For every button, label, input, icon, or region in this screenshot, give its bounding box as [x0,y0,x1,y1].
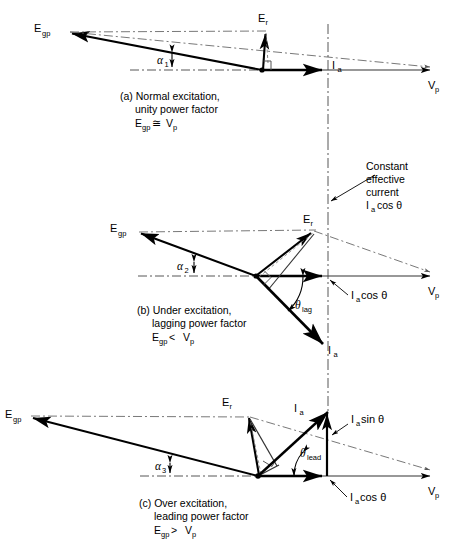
panel-a-upper-dashdot [70,31,268,32]
panel-b-ia-sub: a [334,350,339,359]
panel-b-er-dashed [259,233,313,277]
panel-c-rel-rhs: V [185,524,192,536]
panel-b-rel-lhs-sub: gp [159,337,167,346]
panel-b-rel-rhs-sub: p [190,337,194,346]
panel-c-iacos-leader [330,480,347,497]
panel-c-caption-line-2: leading power factor [154,510,249,522]
panel-a-locus-line [70,32,430,67]
panel-a-alpha-label: α [157,54,164,66]
panel-c-rel-lhs: E [154,524,161,536]
panel-b-er-phasor [257,233,311,275]
panel-b-rel-op: < [169,331,175,343]
panel-b-egp-label: E [110,222,117,234]
panel-b-egp-phasor [141,234,256,277]
panel-a-right-angle-marker [264,61,272,70]
panel-b-egp-sub: gp [118,229,126,238]
panel-a-rel-lhs: E [135,117,142,129]
panel-c-iasin-leader [332,424,348,435]
annotation-symbol-rest: cos θ [377,199,402,211]
panel-b: E gp E r I a α 2 θ lag I a cos θ V p (b)… [110,213,439,360]
panel-b-caption-relation: E gp < V p [152,331,194,346]
annotation-line-2: effective [366,173,405,185]
panel-b-alpha-sub: 2 [185,266,189,275]
panel-a-alpha-sub: 1 [165,60,169,69]
panel-c-egp-sub: gp [13,415,21,424]
panel-c-upper-dashdot [31,416,252,417]
panel-b-er-sub: r [311,219,314,228]
panel-b-rel-lhs: E [152,331,159,343]
panel-c-iacos-rest: cos θ [360,491,386,503]
panel-c-ia-sub: a [300,408,305,417]
panel-c-rel-op: > [171,524,177,536]
panel-b-rel-rhs: V [183,331,190,343]
annotation-symbol-sub: a [371,205,376,214]
panel-c-iacos-base: I [350,491,353,503]
panel-b-locus-line [314,231,430,272]
panel-a-er-sub: r [266,18,269,27]
panel-b-upper-dashdot [139,230,316,232]
annotation-line-1: Constant [366,160,408,172]
phasor-diagram-svg: E gp E r I a α 1 V p (a) Normal excitati… [0,0,459,546]
panel-b-er-label: E [303,213,310,225]
panel-a-rel-rhs: V [166,117,173,129]
panel-c-caption-relation: E gp > V p [154,524,196,539]
panel-c-egp-label: E [5,408,12,420]
panel-b-iacos-base: I [351,289,354,301]
panel-c-iasin-base: I [351,413,354,425]
panel-c-theta-sub: lead [307,453,321,462]
panel-c-iacos-label: I a cos θ [350,491,386,506]
panel-b-origin-vertex [253,273,258,278]
panel-c-caption-line-1: (c) Over excitation, [139,497,227,509]
panel-a-caption-line-2: unity power factor [135,103,218,115]
panel-b-theta-sub: lag [302,305,312,314]
panel-b-caption-line-1: (b) Under excitation, [137,304,232,316]
panel-c-er-label: E [222,396,229,408]
panel-a-rel-rhs-sub: p [173,123,177,132]
panel-a-egp-label: E [34,22,41,34]
panel-c-iasin-rest: sin θ [361,413,384,425]
panel-b-alpha-label: α [177,260,184,272]
annotation-line-3: current [366,186,399,198]
panel-b-iacos-leader [330,280,348,295]
panel-a: E gp E r I a α 1 V p (a) Normal excitati… [34,12,439,140]
panel-a-ia-label: I [332,59,335,71]
panel-c: E gp E r I a α 3 θ lead I a sin θ I a co… [5,360,439,539]
panel-c-theta-label: θ [300,447,306,459]
constant-current-annotation: Constant effective current I a cos θ [328,140,408,215]
panel-c-ia-phasor [258,412,328,476]
panel-a-caption-relation: E gp ≅ V p [135,117,177,132]
panel-a-er-label: E [258,12,265,24]
panel-b-iacos-label: I a cos θ [351,289,387,304]
panel-c-alpha-sub: 3 [162,466,166,475]
panel-b-ia-label: I [328,344,331,356]
panel-c-egp-phasor [33,418,258,476]
panel-b-caption-line-2: lagging power factor [152,317,247,329]
panel-a-vp-sub: p [435,85,439,94]
panel-a-egp-sub: gp [42,29,50,38]
panel-b-right-angle-marker [264,271,271,285]
panel-c-rel-lhs-sub: gp [161,530,169,539]
panel-c-origin-vertex [255,473,261,479]
panel-a-caption-line-1: (a) Normal excitation, [120,90,220,102]
panel-b-vp-sub: p [435,291,439,300]
panel-b-iacos-rest: cos θ [361,289,387,301]
annotation-symbol: I a cos θ [366,199,402,214]
figure-canvas: E gp E r I a α 1 V p (a) Normal excitati… [0,0,459,546]
panel-c-vp-sub: p [435,491,439,500]
panel-c-alpha-label: α [155,460,162,472]
panel-c-ia-label: I [294,402,297,414]
panel-a-origin-vertex [259,67,264,72]
panel-c-iasin-label: I a sin θ [351,413,384,428]
panel-a-rel-op: ≅ [152,117,161,129]
panel-c-rel-rhs-sub: p [192,530,196,539]
panel-a-rel-lhs-sub: gp [142,123,150,132]
panel-c-er-sub: r [230,402,233,411]
annotation-symbol-base: I [366,199,369,211]
panel-c-locus-line [250,417,430,470]
panel-a-er-phasor [263,34,266,70]
panel-b-theta-label: θ [295,299,301,311]
